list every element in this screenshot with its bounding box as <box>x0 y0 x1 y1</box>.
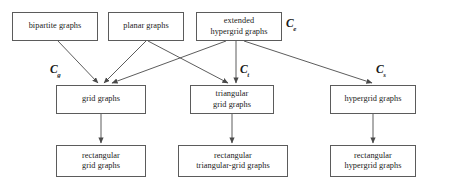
node-rectangular-hypergrid-graphs: rectangular hypergrid graphs <box>330 145 416 177</box>
node-label: planar graphs <box>121 21 171 31</box>
node-label: rectangular grid graphs <box>80 151 122 172</box>
class-label-subscript: g <box>57 71 61 79</box>
node-grid-graphs: grid graphs <box>56 85 146 114</box>
node-hypergrid-graphs: hypergrid graphs <box>330 85 416 114</box>
node-label: rectangular triangular-grid graphs <box>194 151 272 172</box>
class-label-subscript: t <box>247 71 249 79</box>
class-label-c-e: Ce <box>286 18 297 32</box>
class-label-subscript: e <box>293 25 296 33</box>
class-label-c-g: Cg <box>50 64 61 78</box>
node-bipartite-graphs: bipartite graphs <box>12 12 98 41</box>
edge-planar-to-grid <box>104 41 146 83</box>
node-planar-graphs: planar graphs <box>108 12 184 41</box>
node-label: grid graphs <box>80 94 122 104</box>
node-label: bipartite graphs <box>27 21 84 31</box>
class-label-subscript: s <box>383 71 386 79</box>
node-label: hypergrid graphs <box>342 94 403 104</box>
node-label: rectangular hypergrid graphs <box>342 151 403 172</box>
node-label: triangular grid graphs <box>211 89 253 110</box>
edge-bipartite-to-grid <box>58 41 98 83</box>
edge-extended-to-hypergrid <box>244 41 372 83</box>
class-label-c-s: Cs <box>376 64 386 78</box>
class-label-c-t: Ct <box>240 64 250 78</box>
node-label: extended hypergrid graphs <box>208 16 269 37</box>
node-triangular-grid-graphs: triangular grid graphs <box>190 85 274 114</box>
graph-class-hierarchy-diagram: bipartite graphs planar graphs extended … <box>0 0 451 188</box>
node-rectangular-triangular-grid-graphs: rectangular triangular-grid graphs <box>178 145 288 177</box>
node-rectangular-grid-graphs: rectangular grid graphs <box>56 145 146 177</box>
edge-planar-to-triangular-grid <box>148 41 228 83</box>
edge-extended-to-grid <box>112 41 226 83</box>
node-extended-hypergrid-graphs: extended hypergrid graphs <box>196 12 282 41</box>
